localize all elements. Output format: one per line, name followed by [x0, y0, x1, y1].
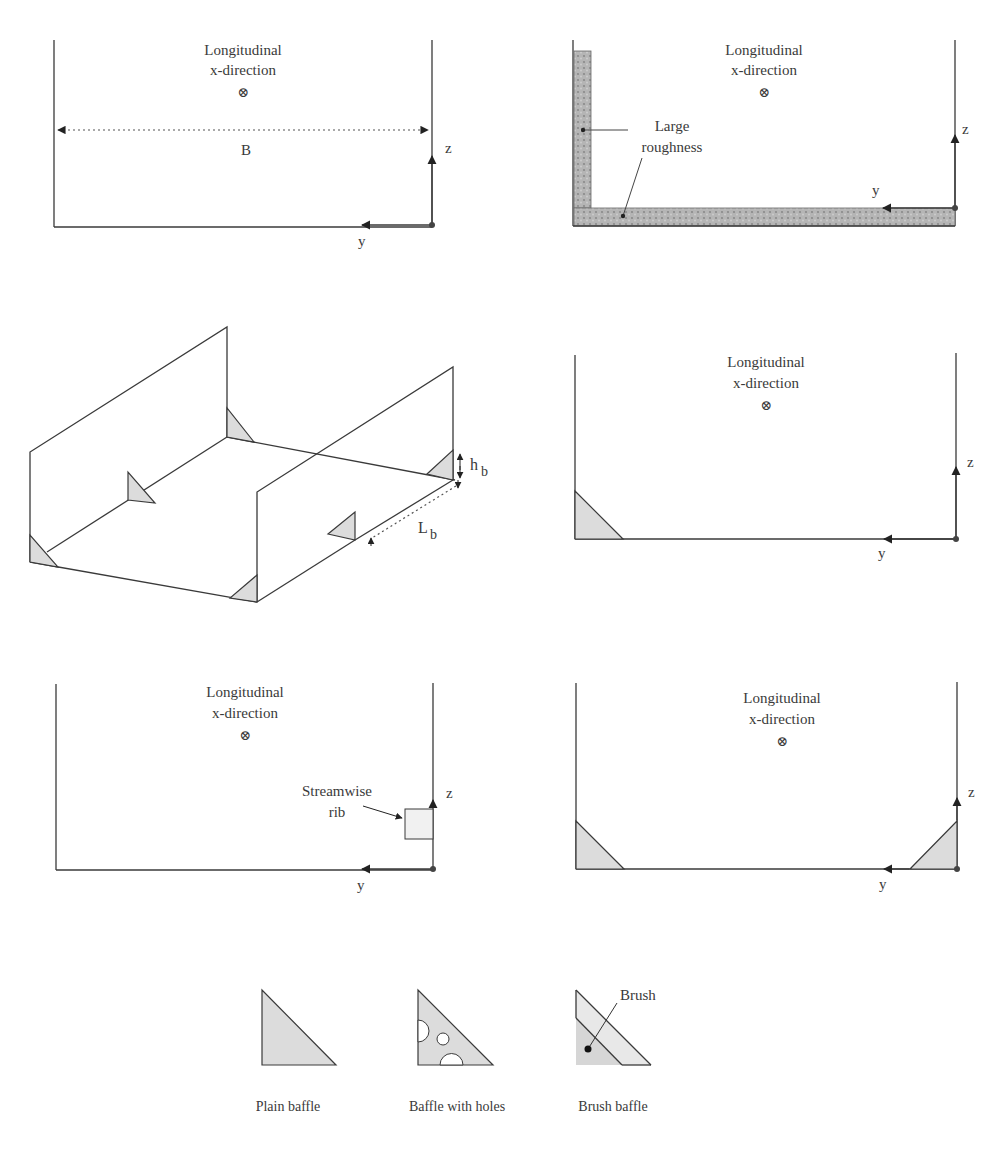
into-page-icon: ⊗ — [776, 734, 788, 749]
lb-dimension-line — [372, 486, 456, 538]
hb-label: h — [470, 456, 478, 473]
rib-label-line2: rib — [329, 804, 346, 820]
right-wall-base-near — [257, 540, 355, 602]
streamwise-rib — [405, 809, 433, 839]
roughness-callout-line-floor — [623, 158, 642, 216]
into-page-icon: ⊗ — [237, 85, 249, 100]
hb-subscript: b — [481, 464, 488, 479]
brush-callout-label: Brush — [620, 987, 656, 1003]
width-label: B — [241, 142, 251, 158]
direction-label-line2: x-direction — [210, 62, 276, 78]
direction-label-line2: x-direction — [212, 705, 278, 721]
direction-label-line2: x-direction — [731, 62, 797, 78]
panel-double-corner-baffles: Longitudinal x-direction ⊗ z y — [576, 682, 975, 892]
panel-large-roughness: Longitudinal x-direction ⊗ Large roughne… — [573, 40, 969, 226]
into-page-icon: ⊗ — [758, 85, 770, 100]
origin-dot — [954, 866, 960, 872]
direction-label-line1: Longitudinal — [206, 684, 284, 700]
left-wall-outline — [30, 327, 227, 562]
corner-baffle-left — [575, 491, 623, 539]
floor-back-edge — [227, 437, 455, 480]
baffle-front-right — [230, 575, 257, 602]
brush-callout-dot — [585, 1046, 592, 1053]
legend-label: Plain baffle — [256, 1099, 321, 1114]
y-axis-label: y — [878, 545, 886, 561]
into-page-icon: ⊗ — [239, 728, 251, 743]
roughness-callout-dot-floor — [621, 214, 625, 218]
legend-item-holed-baffle: Baffle with holes — [409, 990, 505, 1114]
panel-smooth-channel: Longitudinal x-direction ⊗ B z y — [54, 40, 452, 249]
origin-dot — [952, 205, 958, 211]
rib-label-line1: Streamwise — [302, 783, 372, 799]
origin-dot — [430, 866, 436, 872]
z-axis-label: z — [962, 121, 969, 137]
corner-baffle-left — [576, 821, 624, 869]
panel-streamwise-rib: Longitudinal x-direction ⊗ Streamwise ri… — [56, 683, 453, 893]
roughness-label-line1: Large — [655, 118, 690, 134]
y-axis-label: y — [872, 182, 880, 198]
legend-label: Brush baffle — [578, 1099, 647, 1114]
hole-circle — [437, 1033, 449, 1045]
y-axis-label: y — [879, 876, 887, 892]
direction-label-line1: Longitudinal — [725, 42, 803, 58]
baffle-back-right — [427, 450, 453, 480]
z-axis-label: z — [967, 454, 974, 470]
legend-label: Baffle with holes — [409, 1099, 505, 1114]
right-wall-outline — [257, 367, 453, 602]
direction-label-line1: Longitudinal — [727, 354, 805, 370]
baffle-back-left — [227, 408, 254, 442]
roughness-label-line2: roughness — [642, 139, 703, 155]
channel-configurations-figure: Longitudinal x-direction ⊗ B z y Longitu… — [0, 0, 1002, 1150]
baffle-front-left — [30, 535, 58, 567]
corner-baffle-right — [910, 821, 957, 869]
direction-label-line2: x-direction — [733, 375, 799, 391]
y-axis-label: y — [358, 233, 366, 249]
direction-label-line1: Longitudinal — [204, 42, 282, 58]
origin-dot — [429, 222, 435, 228]
rib-callout-arrow — [363, 806, 402, 818]
baffle-mid-right — [328, 512, 355, 540]
lb-subscript: b — [430, 527, 437, 542]
direction-label-line1: Longitudinal — [743, 690, 821, 706]
legend-item-brush-baffle: Brush Brush baffle — [576, 987, 656, 1114]
right-wall-base-far — [355, 480, 453, 540]
legend-item-plain-baffle: Plain baffle — [256, 990, 336, 1114]
panel-isometric-baffles: h b L b — [30, 327, 488, 602]
baffle-type-legend: Plain baffle Baffle with holes Brush Bru… — [256, 987, 657, 1114]
origin-dot — [953, 536, 959, 542]
roughness-callout-dot-wall — [581, 128, 585, 132]
y-axis-label: y — [357, 877, 365, 893]
floor-front-edge — [30, 562, 257, 602]
direction-label-line2: x-direction — [749, 711, 815, 727]
floor-roughness-strip — [574, 208, 955, 226]
panel-single-corner-baffle: Longitudinal x-direction ⊗ z y — [575, 353, 974, 561]
z-axis-label: z — [446, 785, 453, 801]
plain-baffle-icon — [262, 990, 336, 1065]
lb-label: L — [418, 519, 428, 536]
into-page-icon: ⊗ — [760, 398, 772, 413]
baffle-mid-left — [128, 472, 155, 503]
z-axis-label: z — [968, 784, 975, 800]
z-axis-label: z — [445, 140, 452, 156]
